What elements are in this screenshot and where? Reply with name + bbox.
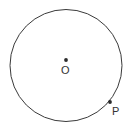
- point-p-label: P: [112, 106, 119, 117]
- point-p-marker: [108, 100, 112, 104]
- center-point-label: O: [61, 65, 70, 76]
- geometry-figure: O P: [0, 0, 131, 132]
- center-point-marker: [64, 58, 68, 62]
